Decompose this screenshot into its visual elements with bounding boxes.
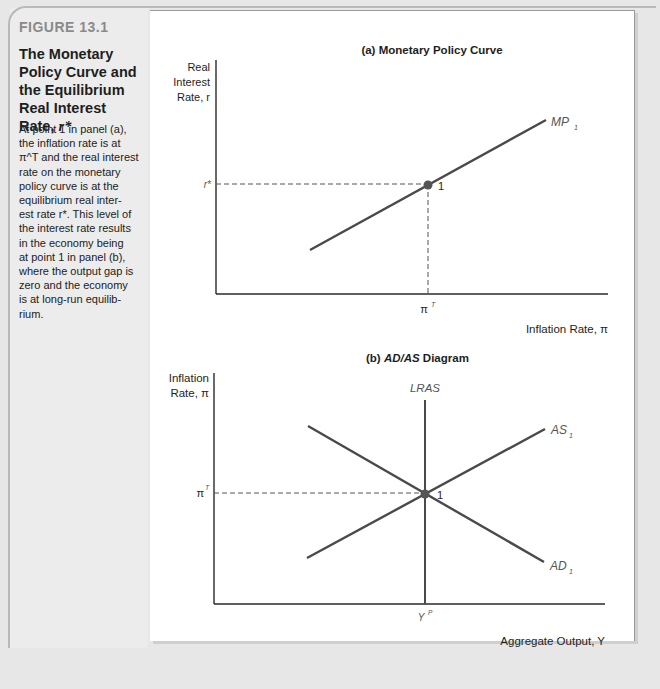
panel-b-pi-t-tick-sup: T — [205, 484, 210, 491]
panel-b-y-label-line: Inflation — [169, 372, 209, 384]
panel-a-y-label-line: Interest — [173, 76, 210, 88]
panel-b-x-label: Aggregate Output, Y — [500, 635, 605, 647]
panel-a-title: (a) Monetary Policy Curve — [361, 44, 502, 56]
mp-curve-label: MP — [551, 115, 569, 129]
r-star-tick: r* — [204, 179, 212, 190]
panel-a: (a) Monetary Policy Curve Real Interest … — [173, 44, 608, 335]
panel-b-point-label: 1 — [437, 489, 443, 501]
yp-tick-sup: P — [428, 609, 433, 616]
pi-t-tick-sup: T — [431, 301, 436, 308]
as-label-sub: 1 — [569, 432, 573, 439]
panel-a-x-label: Inflation Rate, π — [526, 323, 608, 335]
ad-label-sub: 1 — [569, 568, 573, 575]
panel-b-equilibrium-point — [421, 490, 430, 499]
panel-a-y-label-line: Rate, r — [177, 91, 210, 103]
pi-t-tick: π — [420, 303, 428, 315]
ad-label: AD — [549, 559, 567, 573]
panel-a-point-label: 1 — [438, 180, 444, 192]
panel-b-y-label-line: Rate, π — [170, 387, 209, 399]
panel-b-pi-t-tick: π — [196, 487, 204, 499]
diagram-canvas: (a) Monetary Policy Curve Real Interest … — [0, 0, 660, 689]
lras-label: LRAS — [410, 382, 440, 394]
panel-b-title: (b) AD/AS Diagram — [366, 352, 469, 364]
mp-curve-label-sub: 1 — [574, 124, 578, 131]
panel-a-equilibrium-point — [424, 181, 433, 190]
yp-tick: Y — [418, 612, 426, 623]
panel-b: (b) AD/AS Diagram Inflation Rate, π 1 LR… — [169, 352, 606, 647]
panel-a-y-label-line: Real — [187, 61, 210, 73]
as-label: AS — [550, 423, 567, 437]
